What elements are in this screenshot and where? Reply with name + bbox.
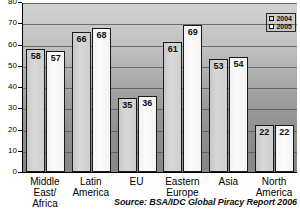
- bar-2004: 35: [118, 98, 137, 172]
- bar-group: 6169: [160, 3, 206, 172]
- bar-value-label: 69: [188, 28, 198, 37]
- bar-2004: 58: [26, 49, 45, 172]
- bar-value-label: 54: [234, 60, 244, 69]
- bar-2005: 22: [275, 125, 294, 172]
- bar-value-label: 35: [122, 101, 132, 110]
- y-tick-label: 70: [8, 19, 17, 27]
- x-axis-category-label: Middle East/ Africa: [22, 175, 68, 209]
- legend-item-2005: 2005: [269, 23, 292, 30]
- bar-value-label: 61: [168, 45, 178, 54]
- bar-value-label: 66: [76, 35, 86, 44]
- bar-2005: 57: [46, 51, 65, 172]
- bar-value-label: 36: [142, 99, 152, 108]
- y-axis: 80706050403020100: [0, 2, 22, 174]
- legend-swatch-icon: [269, 24, 274, 29]
- x-axis-category-label: Latin America: [68, 175, 114, 209]
- bar-value-label: 53: [214, 62, 224, 71]
- plot-area: 585766683536616953542222: [22, 3, 297, 173]
- legend-item-label: 2005: [276, 23, 292, 30]
- y-tick-label: 40: [8, 83, 17, 91]
- legend-item-label: 2004: [276, 15, 292, 22]
- y-tick-label: 60: [8, 41, 17, 49]
- bar-value-label: 22: [279, 128, 289, 137]
- bar-group: 3536: [114, 3, 160, 172]
- bar-2004: 53: [209, 59, 228, 172]
- bar-group: 5857: [23, 3, 69, 172]
- chart-legend: 20042005: [266, 13, 296, 32]
- bar-group: 5354: [206, 3, 252, 172]
- y-tick-label: 20: [8, 126, 17, 134]
- bar-groups: 585766683536616953542222: [23, 3, 297, 172]
- y-tick-label: 50: [8, 62, 17, 70]
- source-note: Source: BSA/IDC Global Piracy Report 200…: [114, 197, 297, 207]
- bar-group: 6668: [69, 3, 115, 172]
- y-tick-label: 0: [13, 168, 17, 176]
- bar-2004: 61: [163, 42, 182, 172]
- bar-value-label: 57: [51, 54, 61, 63]
- bar-value-label: 68: [96, 31, 106, 40]
- y-tick-label: 10: [8, 147, 17, 155]
- bar-2005: 36: [138, 96, 157, 173]
- bar-2004: 66: [72, 32, 91, 172]
- bar-value-label: 58: [31, 52, 41, 61]
- bar-2005: 54: [229, 57, 248, 172]
- legend-swatch-icon: [269, 16, 274, 21]
- bar-2005: 69: [183, 25, 202, 172]
- y-tick-label: 80: [8, 0, 17, 6]
- bar-2004: 22: [255, 125, 274, 172]
- bar-value-label: 22: [259, 128, 269, 137]
- y-tick-label: 30: [8, 104, 17, 112]
- piracy-rate-bar-chart: 80706050403020100 5857666835366169535422…: [0, 0, 300, 209]
- legend-item-2004: 2004: [269, 15, 292, 22]
- bar-2005: 68: [92, 28, 111, 173]
